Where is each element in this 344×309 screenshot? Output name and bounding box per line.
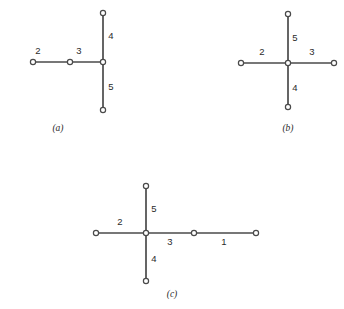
panel-b-edge-5-label: 5 — [292, 32, 297, 43]
panel-b-edge-3-label: 3 — [309, 46, 314, 57]
figure-root: 2345(a)2354(b)23154(c) — [0, 0, 344, 309]
panel-a-edge-2-label: 2 — [35, 45, 40, 56]
panel-c-edge-5-label: 5 — [151, 203, 156, 214]
panel-b-node-left-end — [238, 60, 243, 65]
panel-b-node-center — [285, 60, 290, 65]
panel-c-edge-2-label: 2 — [117, 216, 122, 227]
graph-panel-c: 23154(c) — [93, 183, 258, 300]
panels-group: 2345(a)2354(b)23154(c) — [30, 10, 336, 300]
graph-panel-b: 2354(b) — [238, 11, 336, 134]
panel-b-node-right-end — [331, 60, 336, 65]
panel-c-node-mid-right — [191, 230, 196, 235]
panel-b-edge-4-label: 4 — [292, 82, 297, 93]
panel-caption-a: (a) — [52, 123, 63, 134]
panel-c-node-center — [143, 230, 148, 235]
panel-a-node-mid-left — [67, 59, 72, 64]
panel-c-node-bottom-end — [143, 278, 148, 283]
panel-c-node-top-end — [143, 183, 148, 188]
panel-b-node-bottom-end — [285, 104, 290, 109]
panel-c-edge-1-label: 1 — [221, 236, 226, 247]
graph-figure-canvas: 2345(a)2354(b)23154(c) — [0, 0, 344, 309]
graph-panel-a: 2345(a) — [30, 10, 113, 134]
panel-b-node-top-end — [285, 11, 290, 16]
panel-a-node-bottom-end — [100, 107, 105, 112]
panel-a-edge-4-label: 4 — [108, 30, 113, 41]
panel-a-edge-3-label: 3 — [76, 45, 81, 56]
panel-b-edge-2-label: 2 — [259, 46, 264, 57]
panel-caption-c: (c) — [167, 289, 178, 300]
panel-a-node-left-end — [30, 59, 35, 64]
panel-a-node-top-end — [100, 10, 105, 15]
panel-c-edge-4-label: 4 — [151, 253, 156, 264]
panel-caption-b: (b) — [282, 123, 293, 134]
panel-c-node-left-end — [93, 230, 98, 235]
panel-c-edge-3-label: 3 — [167, 236, 172, 247]
panel-c-node-right-end — [253, 230, 258, 235]
panel-a-edge-5-label: 5 — [108, 81, 113, 92]
panel-a-node-center — [100, 59, 105, 64]
